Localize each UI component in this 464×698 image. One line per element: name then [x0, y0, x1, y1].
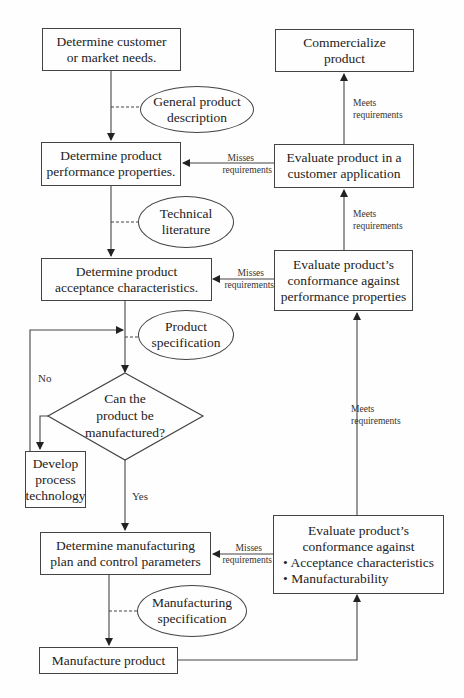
edge-label-no: No — [38, 372, 51, 384]
node-text: plan and control parameters — [50, 554, 200, 570]
edge-label-misses-manufacturing: Misses requirements — [212, 542, 272, 566]
label-line: Misses — [212, 267, 274, 279]
node-text: customer application — [288, 166, 401, 182]
node-commercialize-product: Commercialize product — [275, 29, 414, 72]
node-determine-performance-properties: Determine product performance properties… — [41, 142, 181, 186]
label-line: requirements — [351, 415, 401, 427]
label-line: Misses — [200, 152, 272, 164]
edge-label-meets-commercialize: Meets requirements — [353, 97, 403, 121]
label-line: requirements — [212, 554, 272, 566]
label-line: requirements — [212, 279, 274, 291]
node-text: conformance against — [302, 539, 414, 555]
node-text: process — [35, 472, 76, 488]
label-line: requirements — [353, 220, 403, 232]
label-line: Meets — [353, 208, 403, 220]
node-text: General product — [153, 94, 240, 110]
node-determine-manufacturing-plan: Determine manufacturing plan and control… — [40, 532, 211, 575]
node-evaluate-customer-application: Evaluate product in a customer applicati… — [274, 144, 414, 188]
node-text: product be — [75, 407, 175, 424]
edge-label-misses-performance: Misses requirements — [200, 152, 272, 176]
bullet-item: • Acceptance characteristics — [283, 555, 434, 571]
node-determine-customer-needs: Determine customer or market needs. — [42, 28, 181, 71]
node-text: Determine manufacturing — [56, 538, 195, 554]
node-text: Evaluate product’s — [308, 523, 409, 539]
node-text: technology — [26, 488, 86, 504]
node-text: performance properties. — [47, 164, 176, 180]
decision-can-manufacture: Can the product be manufactured? — [75, 390, 175, 441]
node-text: Determine customer — [57, 34, 167, 50]
edge-label-meets-customer: Meets requirements — [353, 208, 403, 232]
cut-off-caption — [22, 692, 25, 698]
label-line: requirements — [353, 109, 403, 121]
label-line: Meets — [353, 97, 403, 109]
node-text: acceptance characteristics. — [55, 280, 198, 296]
label-line: Meets — [351, 403, 401, 415]
label-line: requirements — [200, 164, 272, 176]
node-manufacture-product: Manufacture product — [39, 647, 178, 674]
node-evaluate-performance-conformance: Evaluate product’s conformance against p… — [274, 250, 413, 311]
node-text: Determine product — [76, 264, 178, 280]
node-text: specification — [152, 335, 221, 351]
node-text: Develop — [33, 456, 79, 472]
node-text: Manufacturing — [152, 595, 232, 611]
node-develop-process-technology: Develop process technology — [25, 451, 86, 508]
node-text: literature — [162, 222, 211, 238]
node-text: Product — [165, 319, 207, 335]
node-text: Evaluate product in a — [286, 150, 401, 166]
node-text: Manufacture product — [52, 653, 166, 669]
edge-label-misses-acceptance: Misses requirements — [212, 267, 274, 291]
node-text: description — [167, 110, 227, 126]
node-text: Evaluate product’s — [293, 257, 394, 273]
node-text: performance properties — [281, 289, 407, 305]
node-text: manufactured? — [75, 424, 175, 441]
node-text: Technical — [160, 206, 212, 222]
node-text: Determine product — [60, 148, 162, 164]
doc-technical-literature: Technical literature — [138, 196, 234, 248]
node-determine-acceptance-characteristics: Determine product acceptance characteris… — [41, 258, 212, 301]
node-text: Can the — [75, 390, 175, 407]
edge-label-meets-performance: Meets requirements — [351, 403, 401, 427]
doc-general-product-description: General product description — [140, 86, 254, 133]
doc-manufacturing-specification: Manufacturing specification — [137, 585, 247, 637]
edge-label-yes: Yes — [132, 490, 148, 502]
doc-product-specification: Product specification — [138, 310, 234, 360]
node-text: conformance against — [287, 273, 399, 289]
node-evaluate-manufacturability: Evaluate product’s conformance against •… — [273, 515, 444, 594]
bullet-item: • Manufacturability — [283, 571, 389, 587]
node-text: specification — [158, 611, 227, 627]
label-line: Misses — [212, 542, 272, 554]
node-text: product — [324, 51, 365, 67]
node-text: or market needs. — [67, 50, 157, 66]
node-text: Commercialize — [303, 35, 385, 51]
